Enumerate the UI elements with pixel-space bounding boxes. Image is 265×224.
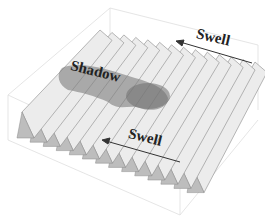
swell-shadow-diagram: Swell Shadow Swell bbox=[0, 0, 265, 224]
wave-ridges bbox=[17, 30, 265, 193]
